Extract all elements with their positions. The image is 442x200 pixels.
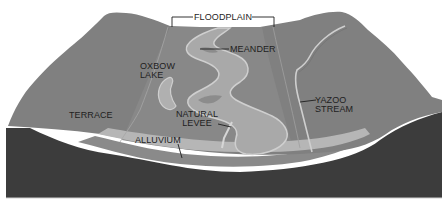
floodplain-label: FLOODPLAIN — [194, 13, 252, 22]
diagram-canvas — [0, 0, 442, 200]
meander-label: MEANDER — [230, 45, 276, 54]
natural-levee-label-line2: LEVEE — [176, 119, 218, 128]
oxbow-lake-label: OXBOW LAKE — [140, 62, 175, 80]
natural-levee-label: NATURAL LEVEE — [176, 110, 218, 128]
yazoo-stream-label: YAZOO STREAM — [315, 96, 353, 114]
alluvium-label: ALLUVIUM — [135, 136, 181, 145]
oxbow-lake-label-line2: LAKE — [140, 71, 175, 80]
yazoo-stream-label-line2: STREAM — [315, 105, 353, 114]
floodplain-diagram: FLOODPLAIN MEANDER OXBOW LAKE TERRACE NA… — [0, 0, 442, 200]
terrace-label: TERRACE — [69, 111, 113, 120]
